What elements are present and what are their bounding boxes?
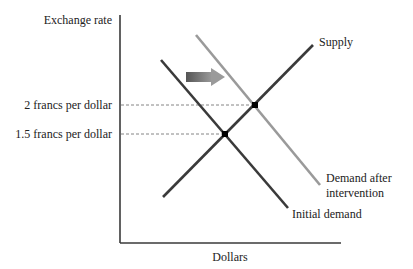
equilibrium-point-after <box>252 102 258 108</box>
initial-demand-label: Initial demand <box>292 207 362 221</box>
demand-shift-arrow <box>186 68 225 86</box>
exchange-rate-diagram: Exchange rate Dollars 2 francs per dolla… <box>0 0 413 269</box>
demand-after-label-line2: intervention <box>326 186 384 200</box>
supply-curve <box>163 45 313 197</box>
equilibrium-point-initial <box>222 131 228 137</box>
x-axis-label: Dollars <box>212 250 248 264</box>
supply-label: Supply <box>319 35 353 49</box>
y-axis-label: Exchange rate <box>44 13 112 27</box>
price-label-1-5-francs: 1.5 francs per dollar <box>15 127 112 141</box>
demand-after-label-line1: Demand after <box>326 171 392 185</box>
price-label-2-francs: 2 francs per dollar <box>24 98 112 112</box>
